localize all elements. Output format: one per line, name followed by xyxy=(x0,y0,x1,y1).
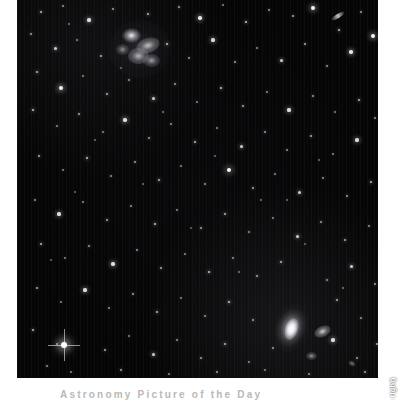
star xyxy=(36,287,38,289)
star xyxy=(74,191,75,192)
side-caption: Deer Lick Group (NGC 7331 Group) and the… xyxy=(389,378,397,400)
star xyxy=(368,225,370,227)
star xyxy=(136,249,138,251)
star xyxy=(132,293,134,295)
star xyxy=(360,317,362,319)
star xyxy=(350,265,353,268)
star xyxy=(50,259,51,260)
star xyxy=(266,91,268,93)
bottom-caption-text: Astronomy Picture of the Day xyxy=(60,390,262,400)
star xyxy=(234,61,236,63)
star xyxy=(176,339,178,341)
star xyxy=(260,199,261,200)
star xyxy=(349,50,353,54)
star xyxy=(320,221,322,223)
star xyxy=(152,353,155,356)
star xyxy=(152,97,155,100)
star xyxy=(160,267,162,269)
star xyxy=(272,217,274,219)
star xyxy=(304,43,306,45)
edge-on-galaxy xyxy=(330,10,346,22)
star xyxy=(331,338,334,341)
star xyxy=(168,373,170,375)
star xyxy=(238,271,239,272)
bottom-caption-clipped: Astronomy Picture of the Day xyxy=(60,390,360,400)
star xyxy=(336,299,338,301)
star xyxy=(298,191,301,194)
star xyxy=(184,253,186,255)
star xyxy=(242,105,244,107)
star xyxy=(200,227,202,229)
star xyxy=(100,55,102,57)
stephans-quintet-member-2 xyxy=(134,35,161,57)
bright-star xyxy=(61,342,67,348)
star xyxy=(156,311,159,314)
star xyxy=(374,283,376,285)
stephans-quintet-member-4 xyxy=(143,54,160,67)
star xyxy=(248,231,250,233)
star xyxy=(310,135,312,137)
star xyxy=(106,93,108,95)
star xyxy=(64,257,66,259)
star xyxy=(326,279,328,281)
star xyxy=(147,13,150,16)
star xyxy=(280,59,283,62)
star xyxy=(268,9,270,11)
star xyxy=(240,145,243,148)
faint-background-galaxy xyxy=(346,358,358,369)
star xyxy=(57,212,60,215)
star xyxy=(252,187,254,189)
star xyxy=(355,138,358,141)
star xyxy=(228,301,231,304)
star xyxy=(40,243,43,246)
star xyxy=(232,257,234,259)
stephans-quintet-member-3 xyxy=(128,48,149,64)
star xyxy=(128,79,130,81)
star xyxy=(200,357,202,359)
star xyxy=(374,117,376,119)
star xyxy=(178,6,180,8)
sky-glow-layer xyxy=(17,0,378,378)
star xyxy=(62,5,64,7)
star xyxy=(356,357,358,359)
star xyxy=(326,65,328,67)
star xyxy=(256,47,258,49)
star xyxy=(68,23,69,24)
star xyxy=(358,99,361,102)
diffraction-spike-horizontal xyxy=(48,345,80,346)
star xyxy=(286,149,288,151)
star xyxy=(364,371,366,373)
diffraction-spike-vertical xyxy=(64,329,65,361)
star xyxy=(334,111,336,113)
star xyxy=(78,113,80,115)
star xyxy=(286,199,287,200)
star xyxy=(224,213,227,216)
star xyxy=(371,34,375,38)
star xyxy=(214,155,215,156)
star xyxy=(296,235,299,238)
star xyxy=(216,371,218,373)
star xyxy=(88,245,90,247)
star xyxy=(83,288,86,291)
star xyxy=(108,307,110,309)
star xyxy=(344,239,346,241)
star xyxy=(196,101,198,103)
astrophoto-page: Deer Lick Group (NGC 7331 Group) and the… xyxy=(0,0,398,400)
star xyxy=(120,369,122,371)
star xyxy=(264,369,266,371)
sensor-stripe-artifact xyxy=(17,0,378,378)
star xyxy=(111,262,114,265)
ngc-7331-core xyxy=(282,317,301,342)
star xyxy=(216,127,218,129)
star xyxy=(87,18,90,21)
star xyxy=(46,365,48,367)
star xyxy=(224,343,227,346)
star xyxy=(245,21,248,24)
star xyxy=(322,177,324,179)
star xyxy=(134,161,136,163)
star xyxy=(112,8,114,10)
star xyxy=(338,29,341,32)
star xyxy=(342,287,343,288)
star xyxy=(176,209,178,211)
star xyxy=(32,109,35,112)
